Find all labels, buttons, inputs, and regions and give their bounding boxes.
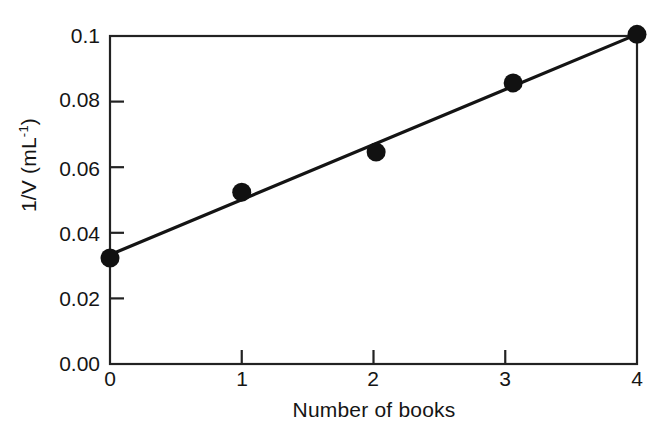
- data-point-3: [504, 73, 523, 92]
- data-point-0: [101, 249, 120, 268]
- data-point-4: [628, 25, 647, 44]
- data-point-group: [101, 25, 647, 268]
- data-point-1: [232, 183, 251, 202]
- y-axis-ticks: [110, 102, 124, 299]
- plot-area: [0, 0, 662, 439]
- plot-frame: [110, 36, 637, 364]
- chart-figure: 1/V (mL-1) 0.00 0.02 0.04 0.06 0.08 0.1 …: [0, 0, 662, 439]
- data-point-2: [367, 143, 386, 162]
- x-axis-ticks: [242, 350, 506, 364]
